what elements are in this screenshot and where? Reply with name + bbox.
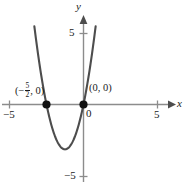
root-label-minus-sign: −	[19, 85, 25, 96]
x-axis-label: x	[177, 98, 182, 109]
origin-point-label: (0, 0)	[89, 83, 112, 94]
y-axis-label: y	[76, 1, 81, 12]
root-label-fraction: 52	[25, 82, 30, 98]
root-point-label: (−52, 0)	[15, 82, 44, 98]
root-label-comma-zero: , 0)	[30, 85, 44, 96]
y-tick-label-neg5: −5	[64, 170, 76, 181]
x-tick-label-5: 5	[154, 109, 160, 120]
y-tick-label-5: 5	[69, 27, 75, 38]
graph-figure: y x 5 −5 −5 5 0 (0, 0) (−52, 0)	[0, 0, 184, 184]
x-tick-label-neg5: −5	[3, 109, 15, 120]
fraction-denominator: 2	[25, 91, 30, 99]
root-point-marker	[42, 100, 50, 108]
origin-tick-label: 0	[86, 108, 92, 119]
y-axis	[80, 15, 88, 182]
